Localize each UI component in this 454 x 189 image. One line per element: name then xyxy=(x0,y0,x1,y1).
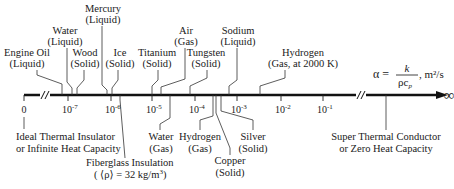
tick-label-1e-3: 10-3 xyxy=(231,103,247,115)
svg-text:(Solid): (Solid) xyxy=(191,58,221,70)
infinity-symbol: ∞ xyxy=(444,87,454,103)
svg-text:Ideal Thermal Insulator: Ideal Thermal Insulator xyxy=(16,131,115,142)
tick-label-1e-4: 10-4 xyxy=(189,103,205,115)
diffusivity-formula: α = k ρcp , m²/s xyxy=(373,62,444,90)
label-ideal-insulator: Ideal Thermal Insulator or Infinite Heat… xyxy=(16,117,121,154)
svg-text:(Gas): (Gas) xyxy=(149,143,173,155)
svg-text:Silver: Silver xyxy=(240,131,266,142)
label-titanium: Titanium (Solid) xyxy=(138,47,176,95)
tick-label-1e-5: 10-5 xyxy=(146,103,162,115)
formula-denominator: ρcp xyxy=(398,76,412,90)
svg-text:Fiberglass Insulation: Fiberglass Insulation xyxy=(86,157,174,168)
svg-text:Wood: Wood xyxy=(73,47,99,58)
svg-text:Water: Water xyxy=(149,131,174,142)
tick-label-0: 0 xyxy=(22,104,27,115)
svg-text:Water: Water xyxy=(53,25,78,36)
thermal-diffusivity-diagram: ∞ 0 10-7 10-6 10-5 10-4 10-3 10-2 10-1 α… xyxy=(0,0,454,189)
svg-text:Titanium: Titanium xyxy=(138,47,176,58)
label-hydrogen-2000k: Hydrogen (Gas, at 2000 K) xyxy=(260,47,338,95)
label-super-conductor: Super Thermal Conductor or Zero Heat Cap… xyxy=(331,95,441,154)
svg-text:(Liquid): (Liquid) xyxy=(86,14,121,26)
svg-text:Copper: Copper xyxy=(215,155,246,166)
svg-text:Ice: Ice xyxy=(114,47,127,58)
svg-text:(Gas): (Gas) xyxy=(188,143,212,155)
svg-text:(Gas, at 2000 K): (Gas, at 2000 K) xyxy=(268,58,338,70)
svg-text:Hydrogen: Hydrogen xyxy=(179,131,222,142)
svg-text:(Solid): (Solid) xyxy=(215,167,245,179)
label-engine-oil: Engine Oil (Liquid) xyxy=(4,47,62,95)
formula-units: , m²/s xyxy=(419,68,444,80)
svg-text:or Infinite Heat Capacity: or Infinite Heat Capacity xyxy=(16,143,121,154)
svg-text:(Solid): (Solid) xyxy=(70,58,100,70)
label-wood: Wood (Solid) xyxy=(70,47,100,95)
fiberglass-density: ( ⟨ρ⟩ = 32 kg/m3) xyxy=(94,168,167,181)
svg-text:Super Thermal Conductor: Super Thermal Conductor xyxy=(331,131,441,142)
axis-break-right xyxy=(356,91,366,99)
axis: ∞ xyxy=(24,87,454,103)
tick-label-1e-1: 10-1 xyxy=(317,103,333,115)
tick-label-1e-2: 10-2 xyxy=(275,103,291,115)
label-ice: Ice (Solid) xyxy=(105,47,135,95)
svg-text:or Zero Heat Capacity: or Zero Heat Capacity xyxy=(339,143,433,154)
label-sodium: Sodium (Liquid) xyxy=(221,25,256,95)
svg-text:(Solid): (Solid) xyxy=(142,58,172,70)
svg-text:Air: Air xyxy=(179,25,194,36)
axis-break-left xyxy=(40,91,50,99)
svg-text:(Solid): (Solid) xyxy=(105,58,135,70)
label-tungsten: Tungsten (Solid) xyxy=(187,47,226,95)
tick-label-1e-7: 10-7 xyxy=(62,103,78,115)
svg-text:Mercury: Mercury xyxy=(85,3,122,14)
tick-labels: 0 10-7 10-6 10-5 10-4 10-3 10-2 10-1 xyxy=(22,103,334,115)
formula-numerator: k xyxy=(405,62,411,74)
svg-text:Hydrogen: Hydrogen xyxy=(282,47,325,58)
svg-text:(Liquid): (Liquid) xyxy=(10,58,45,70)
svg-text:(Liquid): (Liquid) xyxy=(221,36,256,48)
svg-text:Tungsten: Tungsten xyxy=(187,47,226,58)
svg-text:Sodium: Sodium xyxy=(222,25,255,36)
formula-lhs: α = xyxy=(373,67,389,81)
tick-label-1e-6: 10-6 xyxy=(105,103,121,115)
svg-text:Engine Oil: Engine Oil xyxy=(4,47,50,58)
svg-text:(Solid): (Solid) xyxy=(238,143,268,155)
